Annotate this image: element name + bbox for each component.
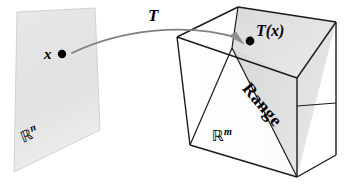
domain-point-label: x (44, 47, 52, 62)
linear-transformation-figure: x T T(x) Range ℝn ℝm (0, 0, 347, 184)
transformation-label: T (148, 7, 158, 24)
codomain-space-label: ℝm (212, 127, 232, 144)
domain-plane (14, 8, 100, 172)
figure-canvas (0, 0, 347, 184)
domain-point-dot (58, 50, 66, 58)
codomain-space-superscript: m (224, 126, 232, 137)
domain-plane-group (14, 8, 100, 172)
codomain-space-symbol: ℝ (212, 127, 224, 145)
image-point-dot (246, 37, 255, 46)
image-point-label: T(x) (256, 23, 284, 39)
